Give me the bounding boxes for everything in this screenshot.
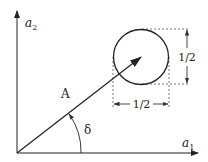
width-dimension-label: 1/2 <box>133 98 151 111</box>
dashed-bounding-box <box>113 29 188 107</box>
angle-delta-label: δ <box>84 123 91 137</box>
y-axis-label: a2 <box>25 16 37 32</box>
angle-arc <box>69 114 81 153</box>
phasor-diagram: a2 a1 A δ 1/2 1/2 <box>0 0 208 162</box>
vector-a-arrow <box>17 57 141 153</box>
height-dimension-label: 1/2 <box>178 51 196 64</box>
x-axis-label: a1 <box>182 136 194 152</box>
vector-a-label: A <box>60 87 70 101</box>
